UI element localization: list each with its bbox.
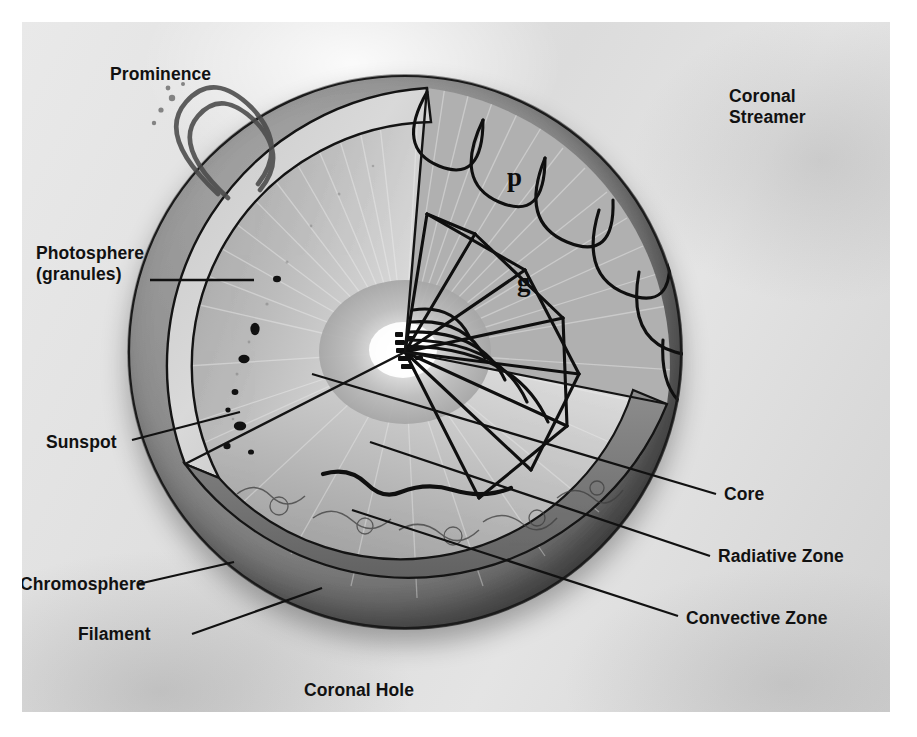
label-sunspot: Sunspot bbox=[46, 432, 117, 453]
label-chromosphere: Chromosphere bbox=[22, 574, 146, 595]
label-filament: Filament bbox=[78, 624, 151, 645]
label-g-mode: g bbox=[517, 267, 531, 298]
label-core: Core bbox=[724, 484, 764, 505]
label-prominence: Prominence bbox=[110, 64, 211, 85]
label-coronal-hole: Coronal Hole bbox=[304, 680, 414, 701]
sun-sphere bbox=[127, 74, 683, 630]
label-coronal-streamer: Coronal Streamer bbox=[729, 86, 806, 128]
label-photosphere: Photosphere (granules) bbox=[36, 243, 144, 285]
label-p-mode: p bbox=[507, 162, 522, 193]
label-radiative-zone: Radiative Zone bbox=[718, 546, 844, 567]
label-convective-zone: Convective Zone bbox=[686, 608, 828, 629]
figure-page: Prominence Coronal Streamer Photosphere … bbox=[0, 0, 917, 737]
scanned-plate: Prominence Coronal Streamer Photosphere … bbox=[22, 22, 890, 712]
